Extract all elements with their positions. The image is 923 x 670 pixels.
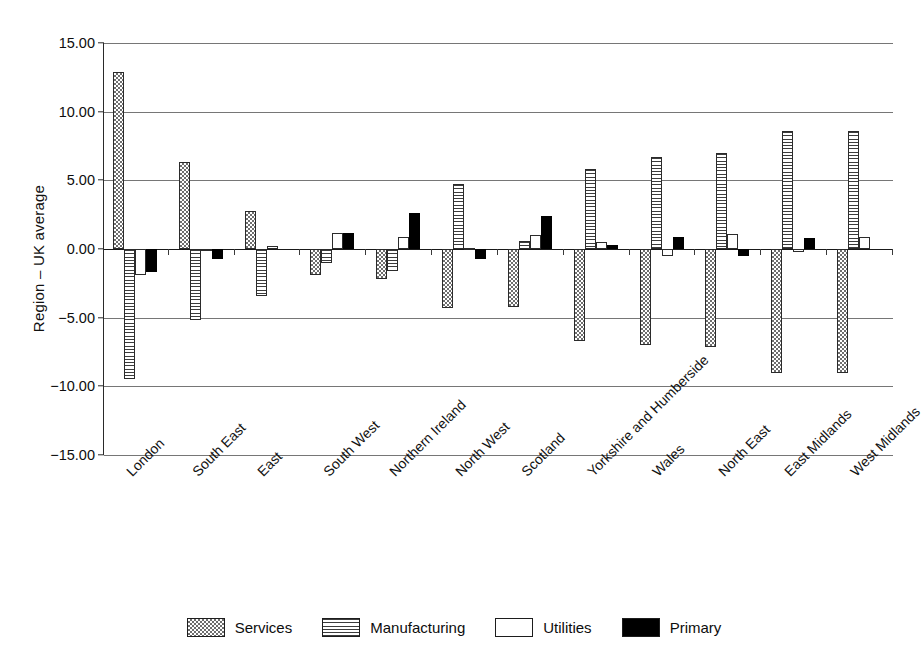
legend-item[interactable]: Services xyxy=(187,618,293,637)
bar xyxy=(782,131,793,249)
legend-swatch-icon xyxy=(495,618,533,637)
bar xyxy=(596,242,607,249)
bar xyxy=(793,249,804,252)
x-tick-mark xyxy=(365,249,366,255)
bar xyxy=(475,249,486,259)
legend-item[interactable]: Utilities xyxy=(495,618,591,637)
bar xyxy=(387,249,398,271)
bar xyxy=(376,249,387,279)
bar xyxy=(640,249,651,345)
bar xyxy=(651,157,662,249)
bar xyxy=(727,234,738,249)
bar-group xyxy=(762,43,828,455)
bar xyxy=(519,241,530,249)
legend-swatch-icon xyxy=(622,618,660,637)
bar xyxy=(837,249,848,373)
bar xyxy=(212,249,223,259)
bar xyxy=(453,184,464,249)
x-tick-mark xyxy=(299,249,300,255)
bar xyxy=(673,237,684,249)
bar xyxy=(179,162,190,249)
legend-label: Services xyxy=(235,619,293,636)
bar xyxy=(245,211,256,249)
x-tick-mark xyxy=(168,249,169,255)
bar xyxy=(256,249,267,296)
bar xyxy=(332,233,343,249)
bar xyxy=(574,249,585,341)
bar xyxy=(190,249,201,320)
y-tick-label: 5.00 xyxy=(67,172,104,188)
bar-group xyxy=(302,43,368,455)
x-tick-mark xyxy=(760,249,761,255)
bar xyxy=(541,216,552,249)
x-tick-mark xyxy=(629,249,630,255)
plot-area: 15.0010.005.000.00−5.00−10.00−15.00 xyxy=(103,43,893,455)
bar xyxy=(146,249,157,272)
bar xyxy=(585,169,596,249)
legend-label: Manufacturing xyxy=(370,619,465,636)
y-tick-label: −10.00 xyxy=(50,378,104,394)
bar-group xyxy=(433,43,499,455)
x-tick-mark xyxy=(694,249,695,255)
bar-group xyxy=(236,43,302,455)
legend-item[interactable]: Primary xyxy=(622,618,722,637)
bar xyxy=(859,237,870,249)
bar xyxy=(771,249,782,373)
bar-group xyxy=(104,43,170,455)
bar xyxy=(409,213,420,249)
x-tick-mark xyxy=(431,249,432,255)
bar xyxy=(113,72,124,249)
bar xyxy=(662,249,673,256)
x-tick-mark xyxy=(497,249,498,255)
x-tick-mark xyxy=(892,249,893,255)
y-tick-label: 0.00 xyxy=(67,241,104,257)
bar xyxy=(398,237,409,249)
legend-swatch-icon xyxy=(187,618,225,637)
bar xyxy=(201,249,212,251)
bar-group xyxy=(828,43,894,455)
bar xyxy=(124,249,135,379)
bar xyxy=(310,249,321,275)
y-tick-label: −5.00 xyxy=(58,310,104,326)
bar xyxy=(530,235,541,249)
bar xyxy=(705,249,716,347)
bar xyxy=(804,238,815,249)
bar xyxy=(343,233,354,249)
chart-legend: ServicesManufacturingUtilitiesPrimary xyxy=(0,618,908,637)
legend-item[interactable]: Manufacturing xyxy=(322,618,465,637)
bar-group xyxy=(499,43,565,455)
legend-label: Primary xyxy=(670,619,722,636)
y-tick-label: 10.00 xyxy=(59,104,104,120)
bar xyxy=(716,153,727,249)
bar-group xyxy=(565,43,631,455)
bar xyxy=(607,245,618,249)
y-axis-title: Region – UK average xyxy=(30,149,47,369)
y-tick-label: −15.00 xyxy=(50,447,104,463)
x-tick-mark xyxy=(826,249,827,255)
x-tick-mark xyxy=(234,249,235,255)
bar xyxy=(848,131,859,249)
bar xyxy=(508,249,519,307)
x-tick-mark xyxy=(563,249,564,255)
bar xyxy=(321,249,332,263)
bar-group xyxy=(367,43,433,455)
bar xyxy=(442,249,453,308)
bar xyxy=(135,249,146,275)
bar xyxy=(267,246,278,249)
bar-group xyxy=(697,43,763,455)
y-tick-label: 15.00 xyxy=(59,35,104,51)
bar xyxy=(738,249,749,256)
bar xyxy=(464,248,475,250)
legend-label: Utilities xyxy=(543,619,591,636)
bar-group xyxy=(170,43,236,455)
legend-swatch-icon xyxy=(322,618,360,637)
